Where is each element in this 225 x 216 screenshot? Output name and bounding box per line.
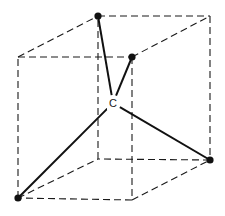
atom-bottom-back-right xyxy=(206,156,213,163)
bond-bottom-back-right xyxy=(120,107,210,160)
cube-edge xyxy=(18,198,132,200)
cube-edge xyxy=(98,159,210,160)
atom-top-back-left xyxy=(94,12,101,19)
tetrahedral-carbon-diagram: C xyxy=(0,0,225,216)
carbon-label: C xyxy=(109,97,117,109)
cube-edge xyxy=(132,16,210,57)
diagram-canvas: C xyxy=(0,0,225,216)
atom-bottom-front-left xyxy=(14,194,21,201)
center-atom: C xyxy=(107,96,119,110)
cube-edge xyxy=(18,159,98,198)
atom-top-front-right xyxy=(128,53,135,60)
bond-bottom-front-left xyxy=(18,109,107,198)
cube-edge xyxy=(18,16,98,57)
cube-edge xyxy=(132,160,210,200)
bond-top-front-right xyxy=(116,57,132,96)
bond-top-back-left xyxy=(98,16,112,95)
